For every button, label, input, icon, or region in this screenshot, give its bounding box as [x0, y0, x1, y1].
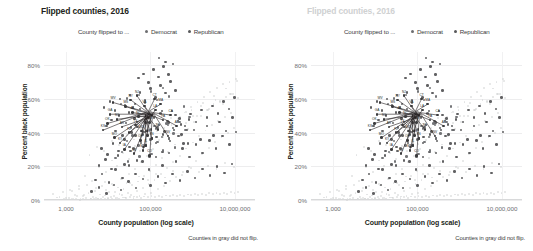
scatter-point-label: MA [425, 99, 430, 102]
x-axis-tick-label: 100,000 [406, 205, 428, 212]
scatter-point-label: GA [375, 109, 380, 112]
scatter-point-labeled [131, 111, 134, 114]
scatter-point-label: VA [409, 101, 413, 104]
scatter-point-labeled [151, 137, 154, 140]
legend-caption: County flipped to ... [344, 28, 395, 35]
scatter-point-labeled [380, 136, 383, 139]
footnote: Counties in gray did not flip. [188, 235, 258, 241]
x-axis-title: County population (log scale) [0, 219, 266, 226]
scatter-point-label: CA [168, 110, 172, 113]
x-axis-tick-label: 1,000 [58, 205, 73, 212]
scatter-point-label: OH [405, 135, 410, 138]
scatter-point-labeled [124, 105, 127, 108]
gridline-horizontal [44, 200, 255, 201]
scatter-point-label: FL [127, 128, 131, 131]
scatter-point-label: KY [118, 138, 122, 141]
legend-entry-democrat: Democrat [145, 28, 177, 35]
scatter-point-label: MS [390, 102, 395, 105]
chart-panel-left: Flipped counties, 2016 County flipped to… [0, 0, 266, 251]
scatter-point-labeled [424, 128, 427, 131]
scatter-point-labeled [390, 148, 393, 151]
footnote: Counties in gray did not flip. [455, 235, 525, 241]
scatter-point-label: CO [414, 151, 419, 154]
scatter-layer: GASCMSALNCVATNLAARFLTXMDDEMOKYOHILINMIPA… [44, 52, 255, 200]
scatter-point-label: PA [161, 115, 165, 118]
legend-swatch-democrat [145, 30, 148, 33]
label-leader-lines [311, 52, 522, 200]
scatter-point-label: OK [372, 119, 377, 122]
scatter-point-labeled [113, 136, 116, 139]
scatter-point-label: LA [153, 105, 157, 108]
scatter-point-label: MI [156, 125, 160, 128]
legend-swatch-republican [188, 30, 191, 33]
axis-baseline [311, 199, 522, 200]
legend: County flipped to ... Democrat Republica… [78, 28, 229, 35]
scatter-point-labeled [421, 109, 424, 112]
scatter-point-label: SC [115, 114, 119, 117]
scatter-point-label: WI [399, 149, 403, 152]
x-axis-tick-label: 10,000,000 [219, 205, 250, 212]
scatter-point-labeled [410, 105, 413, 108]
scatter-point-label: CA [435, 110, 439, 113]
scatter-point-labeled [109, 113, 112, 116]
scatter-point-label: MD [406, 126, 411, 129]
scatter-point-label: AR [387, 122, 391, 125]
y-axis-tick-label: 80% [295, 62, 307, 69]
label-leader-lines [44, 52, 255, 200]
x-axis-tick-label: 1,000 [325, 205, 340, 212]
scatter-point-labeled [409, 149, 412, 152]
scatter-point-labeled [154, 109, 157, 112]
scatter-point-labeled [404, 115, 407, 118]
scatter-point-label: AZ [175, 121, 179, 124]
scatter-point-label: AL [131, 108, 135, 111]
chart-panel-right: Flipped counties, 2016 County flipped to… [266, 0, 533, 251]
y-axis-tick-label: 60% [295, 96, 307, 103]
scatter-point-labeled [148, 154, 151, 157]
scatter-point-label: NV [433, 131, 437, 134]
y-axis-tick-label: 20% [28, 163, 40, 170]
scatter-point-label: NC [136, 112, 141, 115]
scatter-point-labeled [116, 118, 119, 121]
scatter-point-labeled [413, 134, 416, 137]
scatter-point-label: OH [138, 135, 143, 138]
scatter-point-labeled [406, 139, 409, 142]
scatter-point-label: GA [108, 109, 113, 112]
legend-entry-republican: Republican [188, 28, 224, 35]
scatter-layer: GASCMSALNCVATNLAARFLTXMDDEMOKYOHILINMIPA… [311, 52, 522, 200]
flipped-counties-figure: Flipped counties, 2016 County flipped to… [0, 0, 533, 251]
y-axis-tick-label: 40% [28, 129, 40, 136]
scatter-point-labeled [391, 105, 394, 108]
x-axis-title: County population (log scale) [266, 219, 533, 226]
axis-baseline [44, 199, 255, 200]
scatter-point-label: NV [166, 131, 170, 134]
scatter-point-labeled [123, 148, 126, 151]
y-axis-tick-label: 80% [28, 62, 40, 69]
scatter-point-labeled [143, 105, 146, 108]
scatter-point-label: IL [412, 141, 415, 144]
scatter-point-label: NJ [402, 91, 406, 94]
scatter-point-label: MA [158, 99, 163, 102]
scatter-point-labeled [376, 113, 379, 116]
legend-swatch-democrat [411, 30, 414, 33]
legend-label-republican: Republican [460, 28, 490, 35]
scatter-point-labeled [137, 115, 140, 118]
plot-area: GASCMSALNCVATNLAARFLTXMDDEMOKYOHILINMIPA… [311, 52, 522, 200]
scatter-point-label: AZ [442, 121, 446, 124]
scatter-point-labeled [148, 121, 151, 124]
scatter-point-label: NJ [135, 91, 139, 94]
scatter-point-label: MO [112, 133, 117, 136]
scatter-point-labeled [418, 137, 421, 140]
scatter-point-label: NC [403, 112, 408, 115]
scatter-point-label: KY [385, 138, 389, 141]
legend-swatch-republican [454, 30, 457, 33]
scatter-point-labeled [383, 118, 386, 121]
scatter-point-label: TN [147, 118, 151, 121]
scatter-point-label: PA [428, 115, 432, 118]
scatter-point-label: DE [145, 130, 149, 133]
scatter-point-label: CO [147, 151, 152, 154]
scatter-point-label: MO [379, 133, 384, 136]
scatter-point-label: TX [133, 120, 137, 123]
scatter-point-label: DE [412, 130, 416, 133]
plot-area: GASCMSALNCVATNLAARFLTXMDDEMOKYOHILINMIPA… [44, 52, 255, 200]
scatter-point-label: MI [423, 125, 427, 128]
